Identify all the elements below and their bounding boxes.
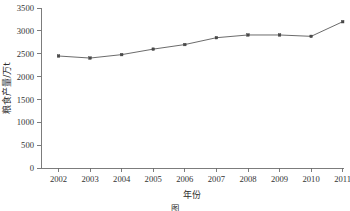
line-chart: 3500 3000 2500 2000 1500 1000 500 0 2002… bbox=[0, 0, 350, 211]
x-tick-label: 2002 bbox=[50, 174, 67, 184]
y-tick-label: 3500 bbox=[17, 3, 34, 13]
x-tick-label: 2004 bbox=[113, 174, 131, 184]
data-point-marker bbox=[247, 34, 250, 37]
x-tick-label: 2011 bbox=[334, 174, 350, 184]
data-point-marker bbox=[152, 48, 155, 51]
y-tick-label: 3000 bbox=[17, 26, 34, 36]
x-axis-ticks bbox=[59, 168, 343, 172]
y-tick-label: 1500 bbox=[17, 95, 34, 105]
x-tick-label: 2008 bbox=[239, 174, 256, 184]
data-point-marker bbox=[184, 43, 187, 46]
data-point-marker bbox=[341, 20, 344, 23]
y-tick-label: 2000 bbox=[17, 72, 34, 82]
figure-container: 3500 3000 2500 2000 1500 1000 500 0 2002… bbox=[0, 0, 350, 211]
y-tick-label: 0 bbox=[30, 163, 34, 173]
y-tick-label: 2500 bbox=[17, 49, 34, 59]
x-tick-label: 2010 bbox=[303, 174, 320, 184]
x-axis-title: 年份 bbox=[183, 189, 201, 200]
x-tick-label: 2009 bbox=[271, 174, 288, 184]
data-point-marker bbox=[120, 53, 123, 56]
x-tick-label: 2005 bbox=[145, 174, 162, 184]
figure-caption: 图 bbox=[171, 203, 179, 211]
data-point-marker bbox=[310, 35, 313, 38]
y-tick-label: 1000 bbox=[17, 117, 34, 127]
data-point-marker bbox=[89, 57, 92, 60]
y-tick-label: 500 bbox=[21, 140, 34, 150]
data-point-marker bbox=[215, 36, 218, 39]
data-point-marker bbox=[278, 34, 281, 37]
y-axis-ticks bbox=[37, 8, 41, 168]
x-tick-label: 2006 bbox=[176, 174, 194, 184]
x-tick-label: 2003 bbox=[82, 174, 99, 184]
plot-area-background bbox=[41, 8, 344, 168]
data-point-marker bbox=[57, 55, 60, 58]
y-axis-title: 粮食产量/万t bbox=[1, 62, 12, 114]
x-tick-label: 2007 bbox=[208, 174, 226, 184]
